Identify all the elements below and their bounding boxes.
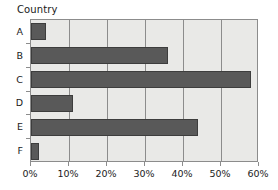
value-tick-label-30pct: 30% [133,168,154,179]
value-tick-label-50pct: 50% [209,168,230,179]
value-tick-mark [258,162,259,166]
bar-chart: Country ABCDEF 0%10%20%30%40%50%60% [0,0,278,190]
category-tick-label-B: B [16,49,23,60]
category-tick-label-C: C [16,73,23,84]
plot-area [30,19,258,162]
bar-row [31,71,257,88]
value-tick-mark [182,162,183,166]
value-tick-mark [144,162,145,166]
category-tick-label-D: D [16,97,23,108]
value-tick-label-40pct: 40% [171,168,192,179]
category-tick-label-A: A [17,25,24,36]
value-tick-label-10pct: 10% [57,168,78,179]
category-tick-mark [26,114,30,115]
category-axis-title: Country [17,4,57,15]
category-tick-mark [26,91,30,92]
bar-E[interactable] [31,119,198,136]
category-tick-mark [26,138,30,139]
value-tick-mark [220,162,221,166]
value-tick-mark [106,162,107,166]
bar-A[interactable] [31,23,46,40]
category-tick-label-E: E [17,121,23,132]
bar-B[interactable] [31,47,168,64]
bar-D[interactable] [31,95,73,112]
bar-row [31,23,257,40]
bar-C[interactable] [31,71,251,88]
value-tick-mark [30,162,31,166]
bar-row [31,47,257,64]
category-tick-label-F: F [18,145,23,156]
bars-layer [31,20,257,161]
category-tick-mark [26,67,30,68]
value-axis: 0%10%20%30%40%50%60% [30,162,258,188]
gridline-60pct [259,20,260,161]
category-axis: ABCDEF [0,19,30,162]
value-tick-label-0pct: 0% [22,168,37,179]
bar-row [31,119,257,136]
bar-row [31,143,257,160]
category-tick-mark [26,43,30,44]
value-tick-label-20pct: 20% [95,168,116,179]
bar-row [31,95,257,112]
bar-F[interactable] [31,143,39,160]
value-tick-label-60pct: 60% [247,168,268,179]
value-tick-mark [68,162,69,166]
